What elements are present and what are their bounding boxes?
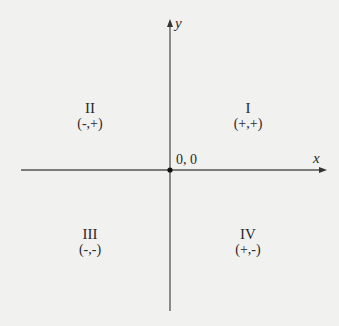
quadrant-numeral: I — [218, 101, 278, 116]
quadrant-2: II (-,+) — [60, 101, 120, 131]
quadrant-numeral: IV — [218, 227, 278, 242]
origin-label: 0, 0 — [176, 152, 197, 168]
quadrant-numeral: II — [60, 101, 120, 116]
quadrant-signs: (-,-) — [60, 242, 120, 257]
coordinate-plane — [0, 0, 339, 326]
quadrant-signs: (-,+) — [60, 116, 120, 131]
quadrant-1: I (+,+) — [218, 101, 278, 131]
quadrant-3: III (-,-) — [60, 227, 120, 257]
quadrant-signs: (+,-) — [218, 242, 278, 257]
y-axis-arrow-icon — [167, 19, 173, 27]
quadrant-numeral: III — [60, 227, 120, 242]
origin-dot — [167, 167, 172, 172]
quadrant-signs: (+,+) — [218, 116, 278, 131]
quadrant-4: IV (+,-) — [218, 227, 278, 257]
x-axis-arrow-icon — [319, 167, 327, 173]
y-axis-label: y — [175, 15, 182, 32]
x-axis-label: x — [313, 150, 320, 167]
